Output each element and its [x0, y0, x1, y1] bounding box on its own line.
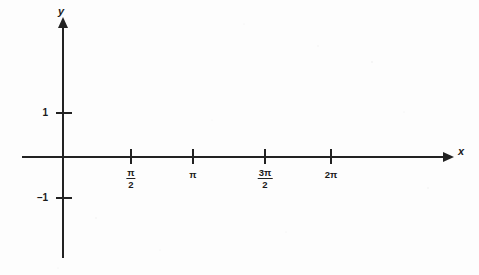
x-axis-label: x [458, 146, 464, 157]
x-tick-label-2pi: 2π [325, 170, 338, 180]
y-axis-line [62, 26, 64, 258]
y-tick-mark [56, 112, 72, 114]
x-tick-label-3pi-over-2: 3π 2 [258, 168, 273, 190]
x-axis-line [22, 156, 446, 158]
y-tick-mark [56, 197, 72, 199]
fraction-3pi-over-2: 3π 2 [258, 168, 273, 190]
x-axis-arrow-icon [443, 152, 454, 162]
y-tick-label-one: 1 [30, 108, 48, 118]
x-tick-mark [130, 149, 132, 164]
x-tick-label-pi-over-2: π 2 [126, 168, 135, 190]
y-axis-label: y [58, 6, 64, 17]
trig-axes-figure: x y π 2 π 3π 2 2π 1 –1 [0, 0, 479, 275]
scan-grain-texture [0, 0, 479, 275]
y-tick-label-negative-one: –1 [22, 193, 48, 203]
x-tick-mark [330, 149, 332, 164]
y-axis-arrow-icon [58, 17, 68, 28]
fraction-pi-over-2: π 2 [126, 168, 135, 190]
x-tick-mark [192, 149, 194, 164]
x-tick-label-pi: π [189, 170, 196, 180]
x-tick-mark [264, 149, 266, 164]
